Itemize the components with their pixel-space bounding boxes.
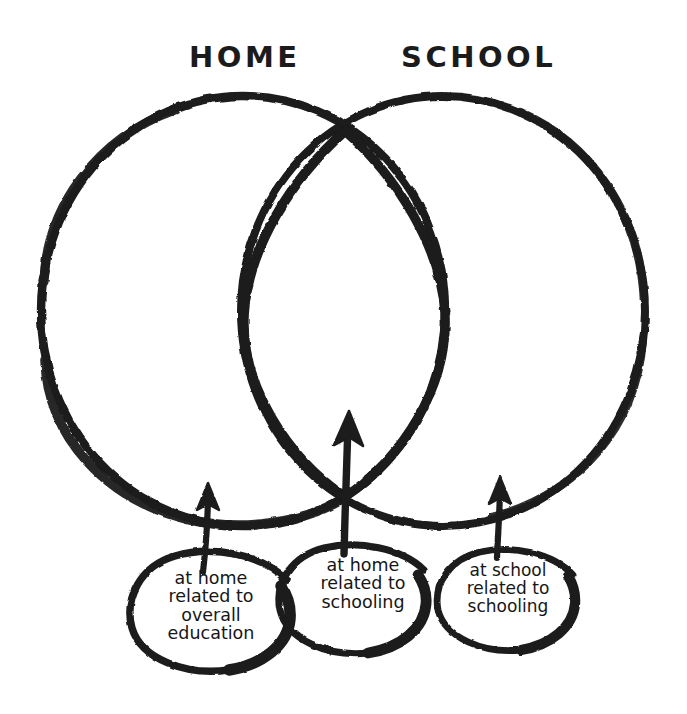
overlap-edge-left (244, 131, 345, 497)
set-label-home: HOME (189, 43, 301, 72)
callout-label-home-only: at home related to overall education (144, 569, 278, 643)
circle-school-accent (492, 112, 644, 517)
set-label-school: SCHOOL (401, 43, 556, 72)
callout-label-school-only: at school related to schooling (447, 562, 569, 616)
callout-label-intersection: at home related to schooling (300, 556, 426, 611)
venn-diagram-canvas: HOME SCHOOL at home related to overall e… (0, 0, 687, 714)
